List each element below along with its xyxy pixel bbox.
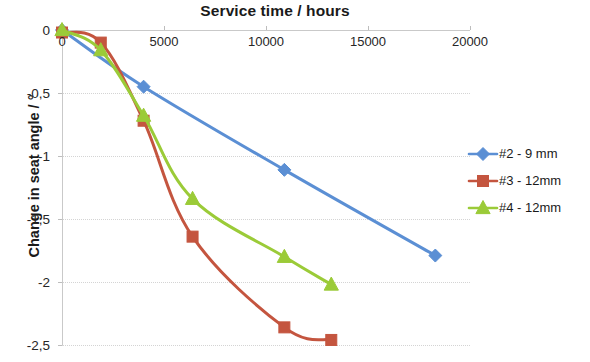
data-point-marker — [324, 277, 338, 290]
chart-legend: #2 - 9 mm#3 - 12mm#4 - 12mm — [468, 140, 590, 221]
y-tick-label: -1 — [0, 149, 50, 164]
x-tick-mark — [470, 26, 471, 30]
series-plot — [62, 30, 470, 345]
data-point-marker — [278, 163, 291, 176]
x-tick-label: 0 — [58, 34, 65, 49]
legend-item-label: #2 - 9 mm — [499, 146, 558, 161]
data-point-marker — [279, 322, 290, 333]
series-line — [62, 32, 331, 340]
y-tick-mark — [58, 345, 62, 346]
plot-area — [62, 30, 470, 345]
y-tick-label: 0 — [0, 23, 50, 38]
x-tick-label: 15000 — [350, 34, 386, 49]
legend-marker-icon — [468, 173, 498, 189]
data-point-marker — [326, 334, 337, 345]
x-tick-label: 10000 — [248, 34, 284, 49]
x-tick-label: 20000 — [452, 34, 488, 49]
legend-marker-icon — [468, 200, 498, 216]
series-line — [62, 30, 331, 285]
series-line — [62, 30, 435, 256]
data-point-marker — [478, 175, 489, 186]
legend-item-2[interactable]: #3 - 12mm — [468, 167, 590, 194]
series-2 — [57, 27, 337, 345]
y-tick-label: -2 — [0, 275, 50, 290]
legend-item-label: #4 - 12mm — [499, 200, 561, 215]
chart-title: Service time / hours — [150, 2, 400, 20]
series-3 — [55, 23, 339, 291]
legend-marker-icon — [468, 146, 498, 162]
gridline — [62, 345, 470, 346]
data-point-marker — [429, 249, 442, 262]
legend-item-1[interactable]: #2 - 9 mm — [468, 140, 590, 167]
data-point-marker — [477, 147, 490, 160]
data-point-marker — [187, 231, 198, 242]
legend-item-label: #3 - 12mm — [499, 173, 561, 188]
legend-item-3[interactable]: #4 - 12mm — [468, 194, 590, 221]
line-chart: Service time / hours Change in seat angl… — [0, 0, 590, 362]
y-tick-label: -1,5 — [0, 212, 50, 227]
y-tick-label: -0,5 — [0, 86, 50, 101]
x-tick-label: 5000 — [150, 34, 179, 49]
data-point-marker — [277, 249, 291, 262]
y-tick-label: -2,5 — [0, 338, 50, 353]
